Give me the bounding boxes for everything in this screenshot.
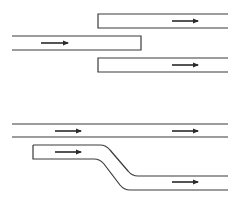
lower-right-lane [98,58,228,72]
lane-split-panel [12,14,228,72]
left-lane [12,36,141,50]
shifting-lane [33,145,228,190]
lane-shift-panel [12,124,228,190]
lane-diagram [0,0,243,202]
through-lane [12,124,228,137]
upper-right-lane [98,14,228,28]
